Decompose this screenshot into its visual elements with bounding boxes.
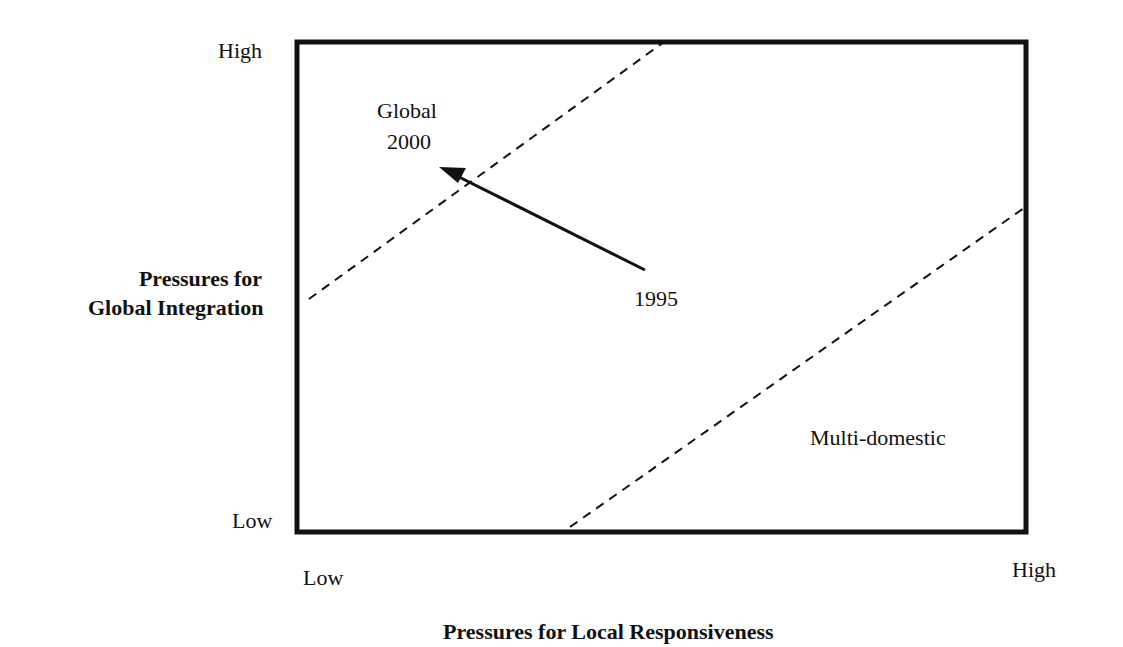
movement-arrow-line [455, 175, 645, 270]
global-boundary-line [309, 42, 664, 299]
y-low-label: Low [232, 508, 272, 534]
x-low-label: Low [303, 565, 343, 591]
arrow-head-icon [439, 167, 466, 183]
year-2000-label: 2000 [387, 129, 431, 155]
x-axis-title: Pressures for Local Responsiveness [443, 619, 774, 645]
global-region-label: Global [377, 98, 437, 124]
y-high-label: High [218, 38, 262, 64]
y-axis-title-line1: Pressures for [118, 266, 283, 292]
x-high-label: High [1012, 557, 1056, 583]
multidomestic-boundary-line [570, 208, 1024, 527]
multidomestic-region-label: Multi-domestic [810, 425, 946, 451]
diagram-canvas [0, 0, 1123, 647]
year-1995-label: 1995 [634, 286, 678, 312]
y-axis-title-line2: Global Integration [88, 295, 263, 321]
